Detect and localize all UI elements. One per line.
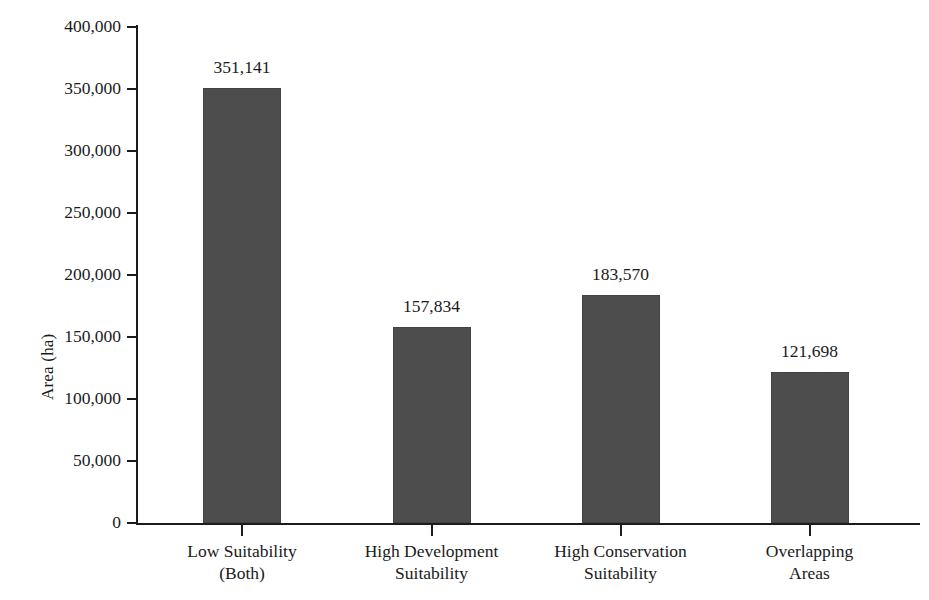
y-axis-tick-label-text: 250,000 [11,204,121,222]
y-axis-tick-label: 0 [0,514,121,532]
x-axis-category-label-line: Suitability [516,562,726,584]
y-axis-tick-label-text: 350,000 [11,80,121,98]
x-axis-tick-mark [809,525,811,536]
x-axis-category-label: High ConservationSuitability [516,540,726,585]
x-axis-tick-mark [241,525,243,536]
y-axis-tick-label-text: 100,000 [11,390,121,408]
x-axis-category-label-line: Low Suitability [137,540,347,562]
y-axis-tick-mark [127,336,136,338]
x-axis-category-label-line: High Conservation [516,540,726,562]
bar [582,295,660,523]
y-axis-tick-mark [127,212,136,214]
x-axis-category-label-line: (Both) [137,562,347,584]
y-axis-tick-label: 200,000 [0,266,121,284]
y-axis-tick-mark [127,150,136,152]
bar-value-label: 121,698 [730,343,890,361]
x-axis-category-label-line: Areas [705,562,915,584]
y-axis-tick-mark [127,26,136,28]
bar [771,372,849,523]
y-axis-tick-mark [127,398,136,400]
bar-value-label: 157,834 [352,298,512,316]
x-axis-category-label: Low Suitability(Both) [137,540,347,585]
x-axis-category-label: High DevelopmentSuitability [327,540,537,585]
x-axis-tick-mark [620,525,622,536]
y-axis-tick-label: 300,000 [0,142,121,160]
y-axis-tick-label-text: 200,000 [11,266,121,284]
y-axis-tick-label: 350,000 [0,80,121,98]
x-axis-category-label-line: Suitability [327,562,537,584]
x-axis-category-label: OverlappingAreas [705,540,915,585]
y-axis-tick-label-text: 150,000 [11,328,121,346]
y-axis-tick-label: 400,000 [0,18,121,36]
y-axis-tick-label-text: 300,000 [11,142,121,160]
x-axis-category-label-line: Overlapping [705,540,915,562]
y-axis-tick-mark [127,522,136,524]
y-axis-tick-mark [127,88,136,90]
y-axis-tick-label-text: 0 [11,514,121,532]
y-axis-tick-label-text: 400,000 [11,18,121,36]
y-axis-tick-label-text: 50,000 [11,452,121,470]
bar [393,327,471,523]
y-axis-tick-mark [127,460,136,462]
y-axis-tick-mark [127,274,136,276]
x-axis-tick-mark [431,525,433,536]
bar [203,88,281,523]
x-axis-line [136,523,920,525]
y-axis-tick-label: 50,000 [0,452,121,470]
bar-chart: Area (ha) 400,000350,000300,000250,00020… [0,0,929,600]
y-axis-line [136,25,138,525]
bar-value-label: 183,570 [541,266,701,284]
bar-value-label: 351,141 [162,59,322,77]
x-axis-category-label-line: High Development [327,540,537,562]
y-axis-tick-label: 100,000 [0,390,121,408]
y-axis-tick-label: 250,000 [0,204,121,222]
y-axis-tick-label: 150,000 [0,328,121,346]
